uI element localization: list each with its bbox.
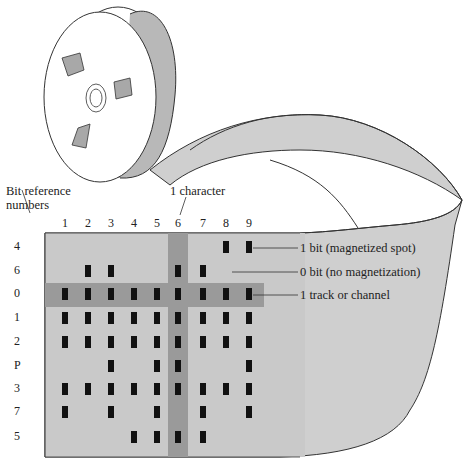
- magnetized-bit: [85, 336, 91, 348]
- magnetized-bit: [108, 312, 114, 324]
- magnetized-bit: [246, 312, 252, 324]
- row-number: 4: [14, 239, 28, 254]
- magnetized-bit: [200, 265, 206, 277]
- magnetized-bit: [246, 406, 252, 418]
- magnetized-bit: [131, 431, 137, 443]
- magnetized-bit: [62, 336, 68, 348]
- magnetized-bit: [154, 360, 160, 372]
- magnetized-bit: [175, 312, 181, 324]
- one-character-label: 1 character: [170, 184, 225, 198]
- magnetized-bit: [175, 431, 181, 443]
- magnetized-bit: [85, 383, 91, 395]
- magnetized-bit: [175, 265, 181, 277]
- magnetized-bit: [223, 241, 229, 253]
- magnetized-bit: [154, 406, 160, 418]
- magnetized-bit: [223, 312, 229, 324]
- magnetized-bit: [175, 360, 181, 372]
- magnetized-bit: [108, 406, 114, 418]
- column-number: 2: [81, 216, 95, 231]
- magnetized-bit: [62, 288, 68, 300]
- bit-reference-label: Bit reference numbers: [6, 184, 71, 212]
- magnetized-bit: [175, 288, 181, 300]
- magnetized-bit: [108, 336, 114, 348]
- magnetized-bit: [131, 383, 137, 395]
- magnetized-bit: [131, 312, 137, 324]
- column-number: 5: [150, 216, 164, 231]
- column-number: 6: [171, 216, 185, 231]
- magnetized-bit: [246, 383, 252, 395]
- one-bit-label: 1 bit (magnetized spot): [300, 241, 416, 255]
- magnetized-bit: [154, 431, 160, 443]
- magnetized-bit: [200, 406, 206, 418]
- magnetized-bit: [175, 336, 181, 348]
- row-number: P: [14, 358, 28, 373]
- magnetized-bit: [131, 336, 137, 348]
- magnetized-bit: [85, 288, 91, 300]
- column-number: 8: [219, 216, 233, 231]
- row-number: 2: [14, 334, 28, 349]
- magnetized-bit: [200, 383, 206, 395]
- magnetized-bit: [108, 265, 114, 277]
- magnetized-bit: [246, 241, 252, 253]
- magnetized-bit: [62, 383, 68, 395]
- row-number: 0: [14, 286, 28, 301]
- magnetized-bit: [154, 383, 160, 395]
- magnetized-bit: [62, 312, 68, 324]
- magnetized-bit: [108, 383, 114, 395]
- column-number: 3: [104, 216, 118, 231]
- magnetized-bit: [108, 288, 114, 300]
- ribbon-fold: [270, 160, 358, 228]
- magnetized-bit: [246, 360, 252, 372]
- magnetized-bit: [131, 288, 137, 300]
- row-number: 5: [14, 429, 28, 444]
- magnetized-bit: [108, 360, 114, 372]
- row-number: 3: [14, 381, 28, 396]
- magnetized-bit: [223, 288, 229, 300]
- track-label: 1 track or channel: [300, 288, 390, 302]
- row-number: 6: [14, 263, 28, 278]
- row-number: 1: [14, 310, 28, 325]
- column-number: 4: [127, 216, 141, 231]
- magnetized-bit: [223, 336, 229, 348]
- column-number: 1: [58, 216, 72, 231]
- row-number: 7: [14, 404, 28, 419]
- column-number: 9: [242, 216, 256, 231]
- magnetized-bit: [246, 288, 252, 300]
- magnetized-bit: [200, 312, 206, 324]
- magnetized-bit: [154, 336, 160, 348]
- magnetized-bit: [200, 288, 206, 300]
- magnetized-bit: [85, 312, 91, 324]
- magnetized-bit: [200, 431, 206, 443]
- magnetized-bit: [246, 336, 252, 348]
- magnetized-bit: [175, 383, 181, 395]
- column-number: 7: [196, 216, 210, 231]
- zero-bit-label: 0 bit (no magnetization): [300, 265, 420, 279]
- magnetized-bit: [85, 265, 91, 277]
- magnetized-bit: [200, 336, 206, 348]
- magnetized-bit: [154, 312, 160, 324]
- magnetized-bit: [223, 383, 229, 395]
- magnetized-bit: [62, 406, 68, 418]
- tape-reel: [44, 7, 176, 182]
- character-leader: [180, 197, 186, 215]
- magnetized-bit: [154, 288, 160, 300]
